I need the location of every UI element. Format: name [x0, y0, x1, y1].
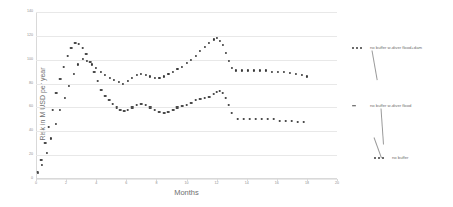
- data-point: [227, 104, 230, 106]
- data-point: [185, 62, 187, 64]
- y-tick-label: 20: [29, 153, 33, 157]
- x-tick-mark: [96, 179, 97, 181]
- data-point: [149, 106, 152, 108]
- data-point: [277, 71, 279, 73]
- legend-label: no buffer w-diver flood+dam: [370, 45, 422, 50]
- data-point: [242, 118, 245, 120]
- data-point: [66, 55, 69, 57]
- data-point: [85, 53, 88, 55]
- x-tick-label: 2: [65, 182, 67, 186]
- data-point: [176, 68, 178, 70]
- data-point: [291, 120, 294, 122]
- y-tick-label: 140: [27, 10, 33, 14]
- data-point: [136, 104, 139, 106]
- x-tick-label: 18: [305, 182, 309, 186]
- legend-swatch-dotted-icon: [352, 46, 368, 50]
- data-point: [100, 71, 102, 73]
- data-point: [295, 73, 297, 75]
- data-point: [131, 106, 134, 108]
- data-point: [167, 111, 170, 113]
- data-point: [45, 152, 47, 154]
- data-point: [119, 109, 122, 111]
- data-point: [190, 102, 193, 104]
- x-tick-mark: [307, 179, 308, 181]
- data-point: [111, 103, 114, 105]
- data-point: [266, 118, 269, 120]
- data-point: [289, 72, 291, 74]
- data-point: [204, 46, 206, 48]
- data-point: [297, 121, 300, 123]
- data-point: [70, 47, 73, 49]
- x-tick-label: 4: [95, 182, 97, 186]
- data-point: [86, 60, 88, 62]
- data-point: [73, 73, 75, 75]
- data-point: [212, 93, 215, 95]
- leader-line: [381, 108, 385, 144]
- x-tick-mark: [156, 179, 157, 181]
- data-point: [265, 69, 267, 71]
- data-point: [41, 164, 43, 166]
- y-axis-line: [36, 12, 37, 179]
- gridline: [36, 107, 337, 108]
- gridline: [36, 131, 337, 132]
- x-axis-title: Months: [36, 188, 337, 197]
- plot-area: 020406080100120140 02468101214161820: [36, 12, 337, 179]
- x-tick-mark: [337, 179, 338, 181]
- data-point: [108, 99, 111, 101]
- x-tick-mark: [277, 179, 278, 181]
- x-tick-mark: [36, 179, 37, 181]
- data-point: [236, 118, 239, 120]
- x-tick-label: 14: [245, 182, 249, 186]
- data-point: [55, 92, 58, 94]
- data-point: [222, 44, 224, 46]
- data-point: [78, 43, 81, 45]
- gridline: [36, 155, 337, 156]
- data-point: [172, 71, 174, 73]
- data-point: [285, 120, 288, 122]
- legend-item-flood-dam[interactable]: no buffer w-diver flood+dam: [352, 45, 422, 50]
- data-point: [181, 105, 184, 107]
- data-point: [306, 75, 308, 77]
- y-tick-label: 120: [27, 34, 33, 38]
- data-point: [224, 97, 227, 99]
- data-point: [225, 52, 227, 54]
- data-point: [167, 73, 169, 75]
- x-tick-label: 6: [125, 182, 127, 186]
- data-point: [154, 109, 157, 111]
- data-point: [140, 103, 143, 105]
- data-point: [185, 104, 188, 106]
- x-tick-mark: [247, 179, 248, 181]
- data-point: [59, 78, 62, 80]
- data-point: [40, 159, 43, 161]
- gridline: [36, 84, 337, 85]
- y-tick-label: 0: [31, 177, 33, 181]
- x-tick-label: 8: [155, 182, 157, 186]
- data-point: [44, 142, 47, 144]
- data-point: [109, 77, 111, 79]
- data-point: [95, 67, 97, 69]
- leader-line: [372, 50, 378, 80]
- data-point: [127, 80, 129, 82]
- x-tick-label: 16: [275, 182, 279, 186]
- data-point: [64, 97, 66, 99]
- data-point: [228, 60, 230, 62]
- legend-label: no buffer: [392, 155, 408, 160]
- gridline: [36, 36, 337, 37]
- data-point: [259, 69, 261, 71]
- data-point: [63, 66, 66, 68]
- legend-swatch-dashed-icon: [352, 104, 368, 108]
- data-point: [181, 66, 183, 68]
- data-point: [131, 77, 133, 79]
- data-point: [140, 73, 142, 75]
- data-point: [113, 79, 115, 81]
- legend-item-flood[interactable]: no buffer w-diver flood: [352, 103, 411, 108]
- data-point: [216, 37, 218, 39]
- data-point: [221, 92, 224, 94]
- data-point: [272, 118, 275, 120]
- data-point: [253, 69, 255, 71]
- data-point: [303, 121, 306, 123]
- y-tick-label: 40: [29, 129, 33, 133]
- data-point: [100, 88, 103, 90]
- data-point: [158, 111, 161, 113]
- data-point: [172, 109, 175, 111]
